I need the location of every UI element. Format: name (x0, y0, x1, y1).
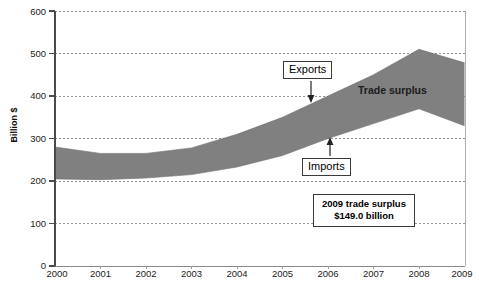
x-tick-2003: 2003 (181, 268, 202, 279)
x-tick-2005: 2005 (272, 268, 293, 279)
x-tick-2007: 2007 (363, 268, 384, 279)
caption-sliver (6, 293, 306, 300)
imports-callout-box: Imports (302, 158, 351, 176)
x-axis-tick-labels: 2000 2001 2002 2003 2004 2005 2006 2007 … (0, 268, 479, 286)
trade-surplus-band-label: Trade surplus (358, 84, 427, 96)
y-axis-ticks (49, 11, 55, 266)
x-tick-2006: 2006 (317, 268, 338, 279)
x-tick-2000: 2000 (46, 268, 67, 279)
x-tick-2008: 2008 (408, 268, 429, 279)
x-tick-2009: 2009 (451, 268, 472, 279)
trade-surplus-band (55, 49, 465, 179)
plot-area (0, 0, 479, 301)
exports-callout-box: Exports (283, 61, 332, 79)
x-tick-2002: 2002 (135, 268, 156, 279)
x-tick-2004: 2004 (226, 268, 247, 279)
surplus-callout-line2: $149.0 billion (322, 210, 406, 222)
x-tick-2001: 2001 (90, 268, 111, 279)
surplus-callout-line1: 2009 trade surplus (322, 198, 406, 210)
exports-callout-arrow (308, 81, 315, 103)
chart-figure: Billion $ 600 500 400 300 200 100 0 (0, 0, 479, 301)
surplus-callout-box: 2009 trade surplus $149.0 billion (313, 194, 415, 227)
grid-lines (55, 11, 465, 224)
imports-callout-arrow (327, 137, 334, 156)
